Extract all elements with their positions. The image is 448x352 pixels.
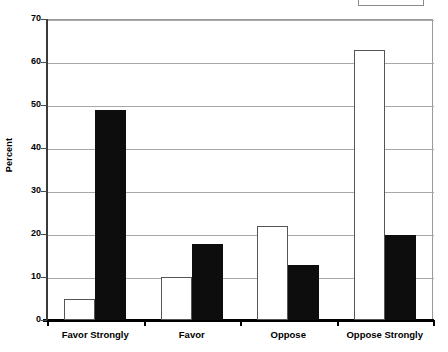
bar-white-series-3	[354, 50, 385, 320]
x-category-label: Favor Strongly	[47, 329, 144, 340]
bar-black-series-1	[192, 244, 223, 320]
y-tick-mark	[41, 105, 47, 106]
y-tick-label: 70	[19, 14, 41, 23]
y-tick-label: 0	[19, 315, 41, 324]
bar-white-series-0	[64, 299, 95, 320]
y-axis-label: Percent	[4, 120, 14, 190]
y-tick: 40	[0, 143, 41, 152]
y-tick-label: 40	[19, 143, 41, 152]
gridline	[48, 20, 434, 21]
y-tick-label: 20	[19, 229, 41, 238]
x-tick-mark	[144, 320, 146, 326]
y-tick: 10	[0, 272, 41, 281]
y-tick-label: 50	[19, 100, 41, 109]
x-tick-mark	[337, 320, 339, 326]
y-tick-mark	[41, 191, 47, 192]
x-category-label: Oppose	[240, 329, 337, 340]
y-tick-mark	[41, 277, 47, 278]
x-category-label: Favor	[144, 329, 241, 340]
bar-black-series-2	[288, 265, 319, 320]
x-tick-mark	[47, 320, 49, 326]
x-category-label: Oppose Strongly	[337, 329, 434, 340]
y-tick-label: 60	[19, 57, 41, 66]
bar-white-series-1	[161, 277, 192, 320]
y-tick-mark	[41, 19, 47, 20]
x-tick-mark	[433, 320, 435, 326]
bar-chart: Percent 706050403020100 Favor StronglyFa…	[0, 0, 448, 352]
y-tick: 60	[0, 57, 41, 66]
y-tick-label: 10	[19, 272, 41, 281]
y-tick: 30	[0, 186, 41, 195]
legend-box	[358, 0, 424, 6]
y-tick: 0	[0, 315, 41, 324]
y-tick-mark	[41, 148, 47, 149]
x-tick-mark	[240, 320, 242, 326]
bar-white-series-2	[257, 226, 288, 320]
y-tick-mark	[41, 234, 47, 235]
y-tick: 50	[0, 100, 41, 109]
y-tick: 20	[0, 229, 41, 238]
y-tick-label: 30	[19, 186, 41, 195]
y-tick: 70	[0, 14, 41, 23]
y-axis-line	[46, 19, 48, 321]
bar-black-series-3	[385, 235, 416, 320]
y-tick-mark	[41, 62, 47, 63]
bar-black-series-0	[95, 110, 126, 320]
